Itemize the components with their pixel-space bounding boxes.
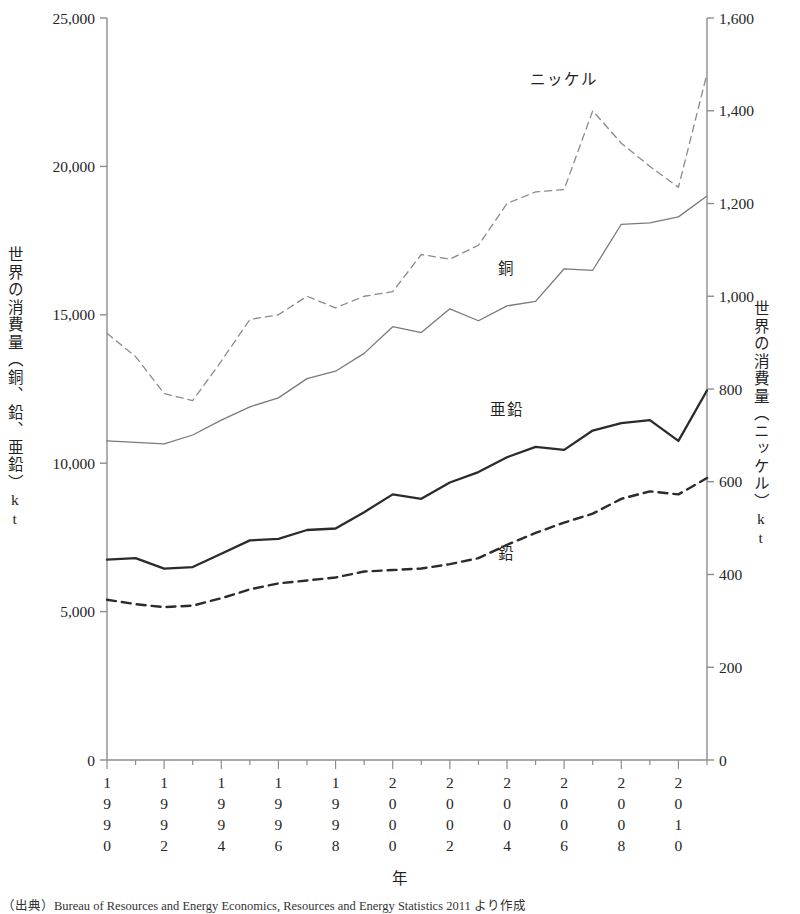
x-tick-digit: 2 <box>380 772 406 793</box>
x-tick-digit: 9 <box>265 793 291 814</box>
right-axis-tick-label: 1,400 <box>719 102 754 119</box>
x-axis-title: 年 <box>0 866 800 888</box>
x-tick-digit: 1 <box>94 772 120 793</box>
x-tick-digit: 0 <box>380 835 406 856</box>
right-axis-title: 世界の消費量（ニッケル）kt <box>752 300 768 580</box>
series-line-1 <box>107 390 707 568</box>
series-line-3 <box>107 74 707 401</box>
left-axis-tick-label: 15,000 <box>52 306 95 323</box>
right-axis-tick-label: 1,000 <box>719 288 754 305</box>
x-tick-digit: 8 <box>323 835 349 856</box>
x-tick-digit: 6 <box>265 835 291 856</box>
x-axis-tick-label: 1996 <box>265 772 291 856</box>
x-tick-digit: 4 <box>208 835 234 856</box>
series-label-0: 銅 <box>498 256 515 278</box>
left-axis-title: 世界の消費量（銅、鉛、亜鉛）kt <box>6 246 22 546</box>
series-line-0 <box>107 196 707 444</box>
x-tick-digit: 9 <box>151 814 177 835</box>
x-tick-digit: 0 <box>437 814 463 835</box>
right-axis-tick-label: 0 <box>719 752 727 769</box>
x-tick-digit: 0 <box>608 793 634 814</box>
right-axis-tick-label: 800 <box>719 381 743 398</box>
x-tick-digit: 1 <box>665 814 691 835</box>
left-axis-tick-label: 20,000 <box>52 158 95 175</box>
x-tick-digit: 0 <box>494 814 520 835</box>
x-tick-digit: 0 <box>608 814 634 835</box>
x-tick-digit: 2 <box>665 772 691 793</box>
x-axis-tick-label: 2002 <box>437 772 463 856</box>
x-tick-digit: 0 <box>94 835 120 856</box>
x-tick-digit: 2 <box>437 772 463 793</box>
x-tick-digit: 9 <box>208 793 234 814</box>
right-axis-tick-label: 1,200 <box>719 195 754 212</box>
left-axis-tick-label: 10,000 <box>52 455 95 472</box>
x-tick-digit: 9 <box>323 793 349 814</box>
x-tick-digit: 2 <box>151 835 177 856</box>
x-tick-digit: 1 <box>265 772 291 793</box>
left-axis-tick-label: 25,000 <box>52 10 95 27</box>
x-tick-digit: 2 <box>494 772 520 793</box>
x-tick-digit: 0 <box>494 793 520 814</box>
x-tick-digit: 9 <box>94 814 120 835</box>
x-tick-digit: 9 <box>323 814 349 835</box>
x-tick-digit: 9 <box>94 793 120 814</box>
source-note: （出典）Bureau of Resources and Energy Econo… <box>2 895 798 914</box>
x-tick-digit: 2 <box>608 772 634 793</box>
x-tick-digit: 9 <box>265 814 291 835</box>
x-tick-digit: 8 <box>608 835 634 856</box>
x-tick-digit: 2 <box>551 772 577 793</box>
series-label-1: 亜鉛 <box>490 397 524 419</box>
x-tick-digit: 4 <box>494 835 520 856</box>
x-tick-digit: 0 <box>665 793 691 814</box>
x-tick-digit: 1 <box>208 772 234 793</box>
x-tick-digit: 9 <box>151 793 177 814</box>
x-tick-digit: 0 <box>437 793 463 814</box>
series-label-2: 鉛 <box>498 541 515 563</box>
x-tick-digit: 0 <box>551 793 577 814</box>
x-tick-digit: 0 <box>380 814 406 835</box>
x-tick-digit: 0 <box>665 835 691 856</box>
x-axis-tick-label: 1990 <box>94 772 120 856</box>
right-axis-tick-label: 600 <box>719 473 743 490</box>
x-tick-digit: 0 <box>380 793 406 814</box>
x-tick-digit: 1 <box>323 772 349 793</box>
x-axis-tick-label: 2010 <box>665 772 691 856</box>
left-axis-tick-label: 0 <box>87 752 95 769</box>
x-tick-digit: 0 <box>551 814 577 835</box>
right-axis-tick-label: 400 <box>719 566 743 583</box>
x-axis-tick-label: 2008 <box>608 772 634 856</box>
x-axis-tick-label: 2000 <box>380 772 406 856</box>
x-axis-tick-label: 1998 <box>323 772 349 856</box>
x-axis-tick-label: 1992 <box>151 772 177 856</box>
x-axis-tick-label: 1994 <box>208 772 234 856</box>
right-axis-tick-label: 200 <box>719 659 743 676</box>
x-tick-digit: 2 <box>437 835 463 856</box>
x-axis-tick-label: 2006 <box>551 772 577 856</box>
series-label-3: ニッケル <box>530 67 598 89</box>
right-axis-tick-label: 1,600 <box>719 10 754 27</box>
x-tick-digit: 9 <box>208 814 234 835</box>
left-axis-tick-label: 5,000 <box>60 603 95 620</box>
x-tick-digit: 6 <box>551 835 577 856</box>
x-axis-tick-label: 2004 <box>494 772 520 856</box>
x-tick-digit: 1 <box>151 772 177 793</box>
